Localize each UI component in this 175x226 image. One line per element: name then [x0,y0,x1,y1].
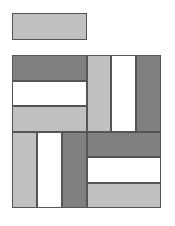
block-bl-dark [62,132,87,208]
block-tl-dark [12,55,87,81]
block-top-bar [12,13,87,40]
block-bl-light [12,132,37,208]
block-tl-light [12,106,87,132]
block-br-light [87,183,161,208]
block-br-dark [87,132,161,157]
block-tr-white [111,55,136,132]
block-bl-white [37,132,62,208]
block-tl-white [12,81,87,106]
block-tr-dark [136,55,161,132]
block-br-white [87,157,161,183]
block-tr-light [87,55,111,132]
